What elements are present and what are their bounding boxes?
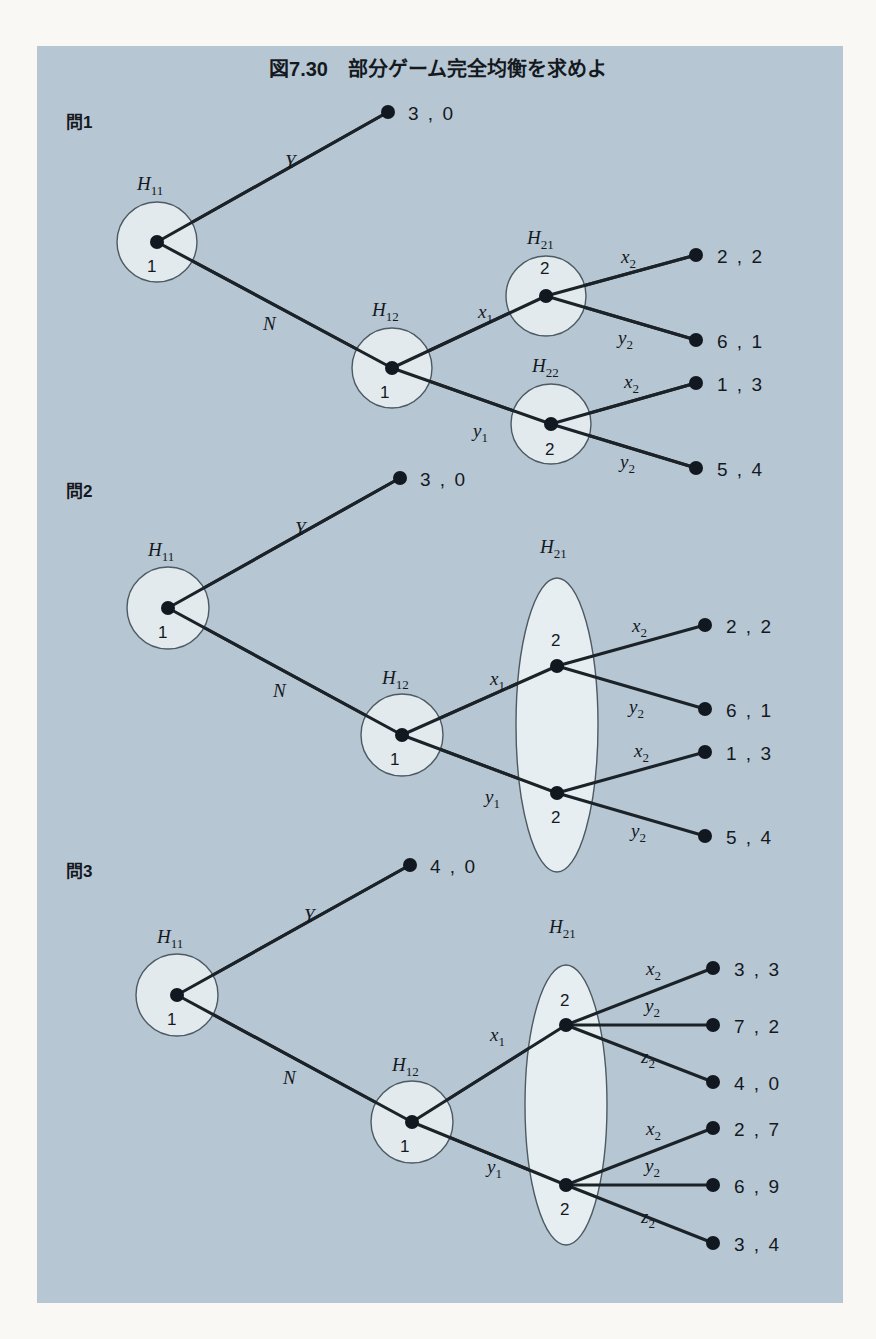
- decision-dot-h21-lower: [550, 786, 564, 800]
- decision-dot-h22: [544, 417, 558, 431]
- action-label-y1: y1: [485, 1156, 502, 1181]
- decision-dot-h21-upper: [550, 659, 564, 673]
- payoff: 2 , 2: [726, 616, 773, 637]
- player-number-h11: 1: [167, 1010, 176, 1029]
- information-set-ellipse-h21: [516, 578, 598, 872]
- terminal-dot: [689, 461, 703, 475]
- player-number-h11: 1: [158, 623, 167, 642]
- action-label-y2: y2: [627, 696, 644, 721]
- action-label-y1: y1: [471, 420, 488, 445]
- edge-h12-x1-over: [392, 296, 546, 368]
- terminal-dot: [689, 333, 703, 347]
- figure-page: 図7.30 部分ゲーム完全均衡を求めよ 問1: [0, 0, 876, 1339]
- payoff: 6 , 9: [734, 1176, 781, 1197]
- terminal-dot: [706, 961, 720, 975]
- action-label-y2: y2: [643, 1155, 660, 1180]
- action-label-z2: z2: [640, 1206, 655, 1231]
- terminal-dot: [706, 1018, 720, 1032]
- edge-h11-Y-over: [157, 112, 388, 242]
- action-label-N: N: [272, 680, 287, 701]
- action-label-y2: y2: [616, 327, 633, 352]
- edge2-h11-N-over: [168, 608, 402, 735]
- terminal-dot: [403, 858, 417, 872]
- terminal-dot: [698, 618, 712, 632]
- label-h22: H22: [531, 355, 559, 380]
- problem-1-label: 問1: [66, 113, 92, 132]
- decision-dot-h21-lower: [559, 1178, 573, 1192]
- problem-3-label: 問3: [66, 862, 92, 881]
- action-label-x2: x2: [620, 246, 636, 271]
- action-label-x1: x1: [489, 1024, 505, 1049]
- terminal-dot: [689, 376, 703, 390]
- label-h12: H12: [371, 299, 399, 324]
- action-label-x1: x1: [477, 301, 493, 326]
- label2-h12: H12: [381, 667, 409, 692]
- action-label-y2: y2: [629, 820, 646, 845]
- label2-h11: H11: [147, 539, 174, 564]
- action-label-N: N: [262, 313, 277, 334]
- payoff: 2 , 7: [734, 1119, 781, 1140]
- decision-dot-h12: [405, 1115, 419, 1129]
- payoff-outside: 3 , 0: [420, 469, 467, 490]
- problem-2-label: 問2: [66, 482, 92, 501]
- player-number-h21-upper: 2: [551, 631, 560, 650]
- action-label-Y: Y: [304, 905, 317, 926]
- action-label-y2: y2: [643, 995, 660, 1020]
- action-label-z2: z2: [640, 1046, 655, 1071]
- terminal-dot: [393, 471, 407, 485]
- action-label-y2: y2: [618, 451, 635, 476]
- player-number-h12: 1: [380, 383, 389, 402]
- label-h11: H11: [136, 173, 163, 198]
- payoff-outside: 4 , 0: [430, 856, 477, 877]
- decision-dot-h21-upper: [559, 1018, 573, 1032]
- game-tree-figure: 図7.30 部分ゲーム完全均衡を求めよ 問1: [0, 0, 876, 1339]
- decision-dot-h11: [161, 601, 175, 615]
- terminal-dot: [698, 829, 712, 843]
- action-label-Y: Y: [295, 518, 308, 539]
- terminal-dot: [706, 1236, 720, 1250]
- edge3-h11-N-over: [177, 995, 412, 1122]
- player-number-h21-lower: 2: [560, 1200, 569, 1219]
- action-label-x2: x2: [645, 958, 661, 983]
- terminal-dot: [698, 745, 712, 759]
- terminal-dot: [689, 248, 703, 262]
- payoff-outside: 3 , 0: [408, 103, 455, 124]
- label3-h12: H12: [391, 1054, 419, 1079]
- label3-h11: H11: [156, 926, 183, 951]
- terminal-dot: [698, 702, 712, 716]
- payoff: 1 , 3: [726, 743, 773, 764]
- action-label-Y: Y: [285, 151, 298, 172]
- player-number-h11: 1: [147, 257, 156, 276]
- decision-dot-h12: [395, 728, 409, 742]
- decision-dot-h11: [150, 235, 164, 249]
- action-label-x1: x1: [489, 668, 505, 693]
- decision-dot-h12: [385, 361, 399, 375]
- player-number-h12: 1: [400, 1137, 409, 1156]
- player-number-h21: 2: [540, 259, 549, 278]
- label2-h21: H21: [539, 536, 567, 561]
- terminal-dot: [381, 105, 395, 119]
- payoff: 6 , 1: [726, 700, 773, 721]
- decision-dot-h11: [170, 988, 184, 1002]
- payoff: 4 , 0: [734, 1073, 781, 1094]
- terminal-dot: [706, 1178, 720, 1192]
- tree-problem-3: 問3: [66, 856, 781, 1255]
- edge3-h11-Y-over: [177, 865, 410, 995]
- action-label-x2: x2: [623, 371, 639, 396]
- action-label-y1: y1: [483, 786, 500, 811]
- payoff: 3 , 3: [734, 959, 781, 980]
- figure-title: 図7.30 部分ゲーム完全均衡を求めよ: [269, 57, 607, 80]
- label-h21: H21: [526, 227, 554, 252]
- action-label-x2: x2: [645, 1118, 661, 1143]
- action-label-x2: x2: [631, 615, 647, 640]
- edge-h11-N-over: [157, 242, 392, 368]
- payoff: 3 , 4: [734, 1234, 781, 1255]
- payoff: 6 , 1: [717, 331, 764, 352]
- tree-problem-1: 問1: [66, 103, 764, 480]
- action-label-N: N: [282, 1067, 297, 1088]
- payoff: 5 , 4: [717, 459, 764, 480]
- player-number-h21-upper: 2: [560, 991, 569, 1010]
- player-number-h21-lower: 2: [551, 808, 560, 827]
- edge2-h11-Y-over: [168, 478, 400, 608]
- payoff: 2 , 2: [717, 246, 764, 267]
